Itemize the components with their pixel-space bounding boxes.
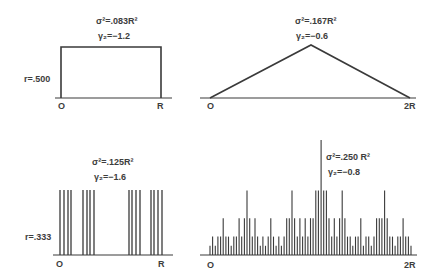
gamma-label: γ₂=−0.6 [296,31,328,41]
spike-bars [210,140,411,255]
sigma-label: σ²=.167R² [295,16,336,26]
r-label: r=.500 [24,74,50,84]
gamma-label: γ₂=−1.2 [98,31,130,41]
x-end-label: 2R [404,260,416,270]
gamma-label: γ₂=−1.6 [94,172,126,182]
sigma-label: σ²=.125R² [92,157,133,167]
x-end-label: R [157,101,164,111]
sigma-label: σ²=.083R² [96,16,137,26]
gamma-label: γ₂=−0.8 [328,167,360,177]
x-start-label: O [207,260,214,270]
x-start-label: O [56,259,63,269]
panel-top-right: σ²=.167R² γ₂=−0.6 O 2R [200,0,442,140]
sigma-label: σ²=.250 R² [326,152,370,162]
x-end-label: R [158,259,165,269]
triangle-shape [210,45,410,98]
r-label: r=.333 [25,232,51,242]
panel-bottom-right: σ²=.250 R² γ₂=−0.8 O 2R [200,140,442,279]
x-end-label: 2R [404,101,416,111]
panel-bottom-left: σ²=.125R² γ₂=−1.6 r=.333 O R [0,140,221,279]
x-start-label: O [207,101,214,111]
spike-field-plot [200,140,442,279]
rectangle-shape [61,47,161,98]
panel-top-left: σ²=.083R² γ₂=−1.2 r=.500 O R [0,0,221,140]
x-start-label: O [58,101,65,111]
spike-bars [60,190,162,255]
